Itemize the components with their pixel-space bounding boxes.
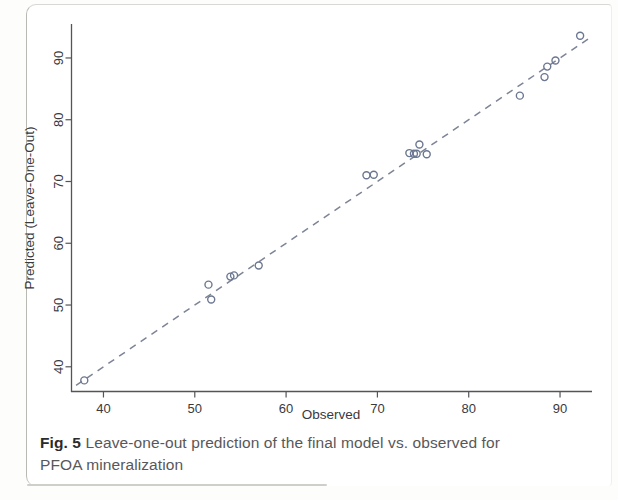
y-axis-title: Predicted (Leave-One-Out) (22, 127, 37, 290)
figure-caption: Fig. 5 Leave-one-out prediction of the f… (40, 432, 560, 477)
data-point (541, 74, 548, 81)
x-tick-label: 70 (370, 401, 384, 416)
x-axis-title: Observed (302, 407, 361, 422)
data-point (552, 57, 559, 64)
y-tick-label: 90 (51, 51, 66, 65)
data-point (423, 151, 430, 158)
data-point (363, 172, 370, 179)
data-point (205, 281, 212, 288)
y-axis-tick-labels: 405060708090 (51, 51, 66, 374)
x-axis-ticks (103, 392, 560, 398)
y-tick-label: 80 (51, 113, 66, 127)
scatter-plot: 405060708090 405060708090 Observed Predi… (0, 0, 618, 500)
data-point (255, 262, 262, 269)
x-tick-label: 90 (553, 401, 567, 416)
x-tick-label: 60 (279, 401, 293, 416)
figure-page: 405060708090 405060708090 Observed Predi… (0, 0, 618, 500)
y-tick-label: 50 (51, 298, 66, 312)
y-tick-label: 70 (51, 174, 66, 188)
x-tick-label: 40 (96, 401, 110, 416)
axes (71, 24, 592, 392)
data-point (81, 377, 88, 384)
data-point (416, 141, 423, 148)
x-tick-label: 50 (188, 401, 202, 416)
data-point (370, 171, 377, 178)
y-tick-label: 40 (51, 360, 66, 374)
plot-svg: 405060708090 405060708090 Observed Predi… (0, 0, 618, 500)
y-axis-ticks (66, 58, 72, 367)
figure-caption-text: Leave-one-out prediction of the final mo… (86, 434, 500, 451)
x-tick-label: 80 (461, 401, 475, 416)
identity-reference-line (76, 38, 589, 385)
data-point (208, 296, 215, 303)
data-point (516, 92, 523, 99)
data-point (577, 32, 584, 39)
y-tick-label: 60 (51, 236, 66, 250)
figure-caption-text-line2: PFOA mineralization (40, 454, 560, 476)
figure-label: Fig. 5 (40, 434, 81, 451)
